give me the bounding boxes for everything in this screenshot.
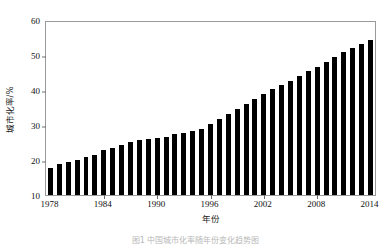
x-axis-tick-labels: 1978198419901996200220082014 bbox=[45, 199, 376, 213]
y-tick-mark bbox=[42, 162, 46, 163]
x-axis-tick-1978: 1978 bbox=[40, 199, 58, 209]
bar bbox=[66, 162, 71, 195]
bar bbox=[57, 164, 62, 195]
bar bbox=[190, 131, 195, 195]
bar bbox=[75, 160, 80, 195]
y-axis-label: 城市化率/% bbox=[2, 60, 16, 160]
x-axis-tick-1996: 1996 bbox=[201, 199, 219, 209]
bar bbox=[270, 89, 275, 195]
bar bbox=[181, 133, 186, 195]
bar bbox=[217, 119, 222, 195]
y-tick-mark bbox=[42, 92, 46, 93]
bar bbox=[279, 85, 284, 195]
y-axis-label-text: 城市化率/% bbox=[3, 87, 15, 134]
x-axis-tick-2002: 2002 bbox=[254, 199, 272, 209]
bar bbox=[324, 62, 329, 195]
x-axis-label: 年份 bbox=[45, 212, 376, 224]
bar bbox=[208, 124, 213, 195]
figure-caption: 图1 中国城市化率随年份变化趋势图 bbox=[0, 234, 391, 245]
bar bbox=[110, 148, 115, 195]
bar bbox=[341, 52, 346, 195]
y-axis-tick-50: 50 bbox=[18, 51, 44, 61]
bar bbox=[288, 81, 293, 195]
bar bbox=[332, 57, 337, 195]
plot-area bbox=[45, 21, 376, 196]
bar bbox=[368, 40, 373, 195]
bar bbox=[199, 129, 204, 195]
bar bbox=[128, 142, 133, 195]
x-axis-tick-2008: 2008 bbox=[307, 199, 325, 209]
bar bbox=[137, 140, 142, 195]
x-axis-tick-2014: 2014 bbox=[361, 199, 379, 209]
y-tick-mark bbox=[42, 57, 46, 58]
bar-series bbox=[46, 22, 375, 195]
bar bbox=[235, 109, 240, 195]
bar bbox=[261, 94, 266, 195]
x-axis-tick-1990: 1990 bbox=[147, 199, 165, 209]
bar bbox=[172, 134, 177, 195]
bar bbox=[297, 76, 302, 195]
bar bbox=[155, 138, 160, 195]
bar bbox=[244, 104, 249, 195]
bar bbox=[164, 137, 169, 195]
y-tick-mark bbox=[42, 127, 46, 128]
bar bbox=[359, 44, 364, 195]
bar bbox=[119, 145, 124, 195]
y-axis-tick-20: 20 bbox=[18, 156, 44, 166]
bar bbox=[146, 139, 151, 195]
bar bbox=[306, 71, 311, 195]
bar bbox=[48, 168, 53, 195]
bar bbox=[350, 48, 355, 195]
x-axis-tick-1984: 1984 bbox=[94, 199, 112, 209]
bar bbox=[226, 114, 231, 195]
bar bbox=[315, 67, 320, 195]
bar bbox=[84, 157, 89, 195]
y-axis-tick-30: 30 bbox=[18, 121, 44, 131]
y-axis-tick-40: 40 bbox=[18, 86, 44, 96]
bar bbox=[92, 155, 97, 195]
bar bbox=[101, 150, 106, 195]
y-axis-tick-60: 60 bbox=[18, 16, 44, 26]
bar bbox=[252, 99, 257, 195]
